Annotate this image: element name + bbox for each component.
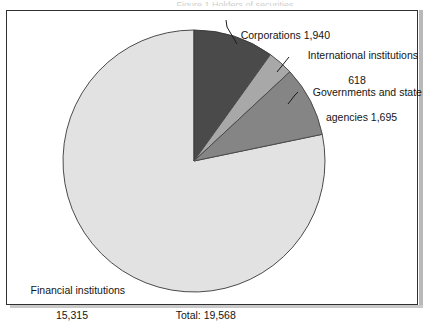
pie-label-financial-line1: Financial institutions	[31, 284, 126, 296]
pie-label-international-line1: International institutions	[308, 49, 418, 61]
pie-chart-total-label: Total: 19,568	[140, 296, 260, 325]
pie-slices	[63, 30, 325, 292]
pie-label-financial-institutions: Financial institutions 15,315	[8, 271, 136, 325]
pie-label-governments-line2: agencies 1,695	[299, 111, 424, 124]
pie-chart-total-text: Total: 19,568	[176, 309, 236, 321]
pie-label-governments-line1: Governments and state	[313, 86, 422, 98]
pie-label-financial-line2: 15,315	[8, 309, 136, 322]
pie-label-governments-and-state-agencies: Governments and state agencies 1,695	[299, 73, 424, 148]
